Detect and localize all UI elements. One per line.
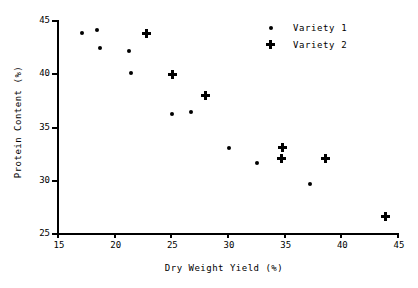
data-point-dot [80, 31, 84, 35]
y-tick-label: 35 [26, 123, 50, 132]
x-tick-label: 40 [330, 241, 354, 250]
data-point-plus [278, 143, 287, 152]
legend-label-variety-1: Variety 1 [293, 23, 347, 33]
data-point-plus [201, 91, 210, 100]
data-point-dot [189, 110, 193, 114]
y-tick-label: 30 [26, 176, 50, 185]
legend-label-variety-2: Variety 2 [293, 40, 347, 50]
x-tick-label: 35 [274, 241, 298, 250]
y-tick-label: 40 [26, 69, 50, 78]
y-axis-title: Protein Content (%) [13, 52, 23, 192]
data-point-dot [308, 182, 312, 186]
legend-entry-variety-2: Variety 2 [262, 37, 402, 54]
x-tick-label: 25 [160, 241, 184, 250]
x-tick-label: 15 [47, 241, 71, 250]
data-point-plus [142, 29, 151, 38]
legend-entry-variety-1: Variety 1 [262, 20, 402, 37]
y-tick-label: 25 [26, 229, 50, 238]
data-point-plus [321, 154, 330, 163]
data-point-dot [227, 146, 231, 150]
data-point-plus [168, 70, 177, 79]
data-point-plus [381, 212, 390, 221]
legend-plus-marker-icon [262, 37, 282, 54]
y-tick-label: 45 [26, 16, 50, 25]
x-tick-label: 30 [217, 241, 241, 250]
legend-dot-marker-icon [262, 20, 282, 37]
scatter-plot-figure: 2530354045 15202530354045 Protein Conten… [0, 0, 418, 288]
x-tick-label: 20 [104, 241, 128, 250]
legend: Variety 1 Variety 2 [262, 20, 402, 54]
data-point-dot [98, 46, 102, 50]
data-point-dot [129, 71, 133, 75]
x-axis-title: Dry Weight Yield (%) [0, 263, 418, 273]
x-tick-label: 45 [387, 241, 411, 250]
data-point-dot [95, 28, 99, 32]
data-point-plus [277, 154, 286, 163]
